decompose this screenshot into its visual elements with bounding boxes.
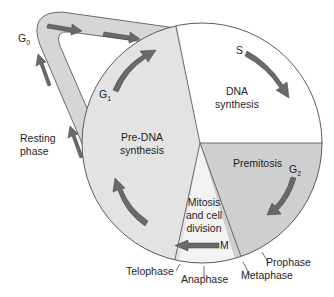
pre-dna-line1: Pre-DNA	[121, 131, 163, 143]
mitosis-line1: Mitosis	[188, 196, 221, 208]
pre-dna-line2: synthesis	[120, 144, 164, 156]
cycle-circle	[40, 10, 334, 297]
s-label: S	[236, 44, 243, 56]
anaphase-label: Anaphase	[181, 273, 228, 285]
dna-synthesis-line2: synthesis	[215, 98, 259, 110]
m-label: M	[220, 239, 229, 251]
g0-label: G0	[18, 32, 30, 46]
prophase-label: Prophase	[266, 256, 311, 268]
mitosis-line2: and cell	[186, 209, 222, 221]
cell-cycle-diagram: G0 G1 S G2 M Resting phase Pre-DNA synth…	[0, 0, 334, 297]
resting-phase-line1: Resting	[20, 132, 56, 144]
premitosis-label: Premitosis	[233, 157, 282, 169]
resting-phase-line2: phase	[20, 145, 49, 157]
mitosis-line3: division	[186, 222, 221, 234]
telophase-label: Telophase	[126, 265, 174, 277]
dna-synthesis-line1: DNA	[226, 85, 248, 97]
metaphase-label: Metaphase	[241, 269, 293, 281]
sector-dna-synthesis	[174, 10, 334, 143]
